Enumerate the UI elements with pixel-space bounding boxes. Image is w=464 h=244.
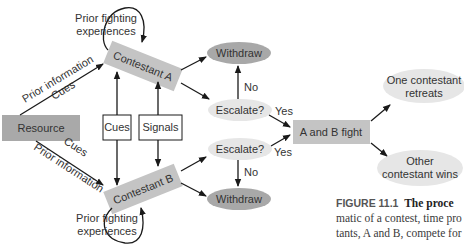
no-b-label: No	[244, 166, 258, 178]
arrow-b-to-escalate	[181, 157, 206, 171]
arrow-fight-to-wins	[371, 143, 387, 156]
escalate-a-node: Escalate?	[208, 99, 272, 121]
prior-fighting-b-line2: experiences	[77, 225, 137, 237]
yes-a-label: Yes	[275, 105, 293, 117]
contestant-a-node: Contestant A	[103, 41, 182, 92]
withdraw-b-label: Withdraw	[216, 193, 262, 205]
retreats-label-line1: One contestant	[387, 74, 462, 86]
arrow-a-to-withdraw	[181, 57, 206, 70]
escalate-a-label: Escalate?	[216, 104, 264, 116]
prior-fighting-a-line1: Prior fighting	[75, 12, 137, 24]
no-a-label: No	[244, 81, 258, 93]
contestant-b-node: Contestant B	[103, 164, 182, 215]
escalate-b-node: Escalate?	[208, 138, 272, 160]
fight-label: A and B fight	[300, 126, 362, 138]
withdraw-a-node: Withdraw	[207, 42, 271, 64]
resource-label: Resource	[17, 122, 64, 134]
escalate-b-label: Escalate?	[216, 143, 264, 155]
figure-label: FIGURE 11.1	[336, 197, 398, 209]
figure-caption: FIGURE 11.1 The proce matic of a contest…	[336, 196, 464, 241]
fight-node: A and B fight	[293, 120, 370, 144]
signals-box-label: Signals	[142, 121, 179, 133]
caption-line3: tants, A and B, compete for	[336, 226, 464, 241]
withdraw-a-label: Withdraw	[216, 47, 262, 59]
retreats-label-line2: retreats	[405, 87, 443, 99]
caption-title: The proce	[404, 197, 453, 209]
arrow-escalate-b-yes	[271, 135, 290, 146]
retreats-node: One contestant retreats	[383, 69, 464, 103]
wins-label-line2: contestant wins	[382, 168, 458, 180]
prior-fighting-a-line2: experiences	[76, 25, 136, 37]
caption-line2: matic of a contest, time pro	[336, 211, 464, 226]
yes-b-label: Yes	[274, 146, 292, 158]
arrow-fight-to-retreats	[371, 105, 390, 121]
prior-fighting-b-line1: Prior fighting	[76, 212, 138, 224]
cues-box-label: Cues	[104, 121, 130, 133]
wins-label-line1: Other	[406, 155, 434, 167]
withdraw-b-node: Withdraw	[207, 188, 271, 210]
wins-node: Other contestant wins	[377, 150, 463, 186]
arrow-b-to-withdraw	[181, 183, 206, 196]
arrow-a-to-escalate	[181, 83, 209, 99]
signals-node: Signals	[139, 115, 182, 140]
cues-node: Cues	[103, 115, 131, 140]
